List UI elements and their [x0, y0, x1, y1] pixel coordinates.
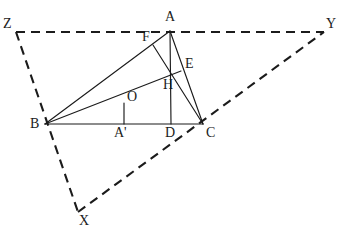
altitude-BE	[45, 71, 181, 124]
vertex-label-H: H	[163, 78, 173, 92]
altitude-CF	[153, 45, 203, 124]
vertex-label-Z: Z	[3, 17, 12, 31]
tangent-line-XY	[78, 32, 324, 212]
vertex-label-D: D	[165, 126, 175, 140]
vertex-label-F: F	[142, 30, 150, 44]
vertex-label-B: B	[30, 117, 39, 131]
vertex-label-C: C	[206, 126, 215, 140]
vertex-label-A-prime: A'	[114, 126, 127, 140]
geometry-canvas	[0, 0, 342, 238]
vertex-label-O: O	[127, 90, 137, 104]
geometry-figure: A B C D E F H O A' X Y Z	[0, 0, 342, 238]
vertex-label-Y: Y	[326, 17, 336, 31]
vertex-label-E: E	[185, 57, 194, 71]
side-AC	[170, 31, 203, 124]
vertex-label-A: A	[165, 10, 175, 24]
side-BA	[45, 31, 170, 124]
vertex-label-X: X	[79, 214, 89, 228]
